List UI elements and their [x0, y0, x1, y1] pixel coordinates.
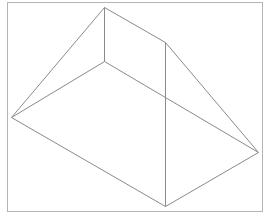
wireframe-solid	[12, 8, 259, 207]
edge-FE	[166, 153, 259, 207]
diagram-frame	[8, 3, 263, 212]
edge-CF	[12, 118, 166, 207]
edge-BE	[166, 43, 259, 153]
edge-DC	[12, 62, 105, 118]
edge-DE	[105, 62, 259, 153]
edge-AC	[12, 8, 105, 118]
diagram-canvas	[0, 0, 265, 219]
edge-AB	[105, 8, 166, 43]
